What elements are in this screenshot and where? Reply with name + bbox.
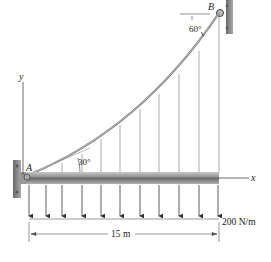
label-span: 15 m	[111, 229, 131, 239]
cable	[28, 13, 219, 175]
label-y-axis: y	[18, 71, 24, 82]
label-angle-30: 30°	[78, 157, 91, 167]
distributed-load-arrows	[29, 185, 218, 216]
label-A: A	[25, 162, 33, 173]
pin-A	[24, 174, 30, 180]
cable-beam-diagram: B 60° y A 30° x 200 N/m 15 m	[0, 0, 271, 262]
label-load-intensity: 200 N/m	[222, 217, 256, 227]
hangers	[62, 17, 219, 173]
label-B: B	[208, 1, 214, 12]
label-angle-60: 60°	[189, 24, 202, 34]
label-x-axis: x	[250, 172, 256, 183]
